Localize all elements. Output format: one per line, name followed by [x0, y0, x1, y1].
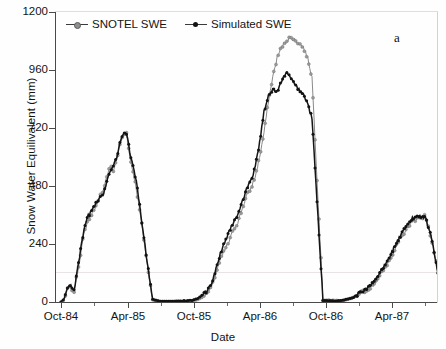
data-point: [213, 272, 216, 275]
data-point: [207, 287, 210, 290]
data-point: [224, 246, 227, 249]
data-point: [147, 267, 150, 270]
data-point: [235, 224, 238, 227]
data-point: [222, 242, 225, 245]
data-point: [220, 251, 223, 254]
x-tick-minor-3: [227, 303, 228, 306]
data-point: [68, 284, 71, 287]
x-tick-oct-84: [61, 303, 62, 308]
data-point: [233, 218, 236, 221]
x-tick-minor-6: [425, 303, 426, 306]
x-tick-oct-86: [326, 303, 327, 308]
data-point: [318, 234, 321, 237]
series-line: [61, 72, 437, 302]
figure-panel-a: Snow Water Equilivalent (mm) 1200 960 72…: [0, 0, 446, 349]
data-point: [264, 122, 267, 125]
data-point: [73, 288, 76, 291]
data-point: [270, 83, 273, 86]
data-point: [149, 283, 152, 286]
data-point: [138, 203, 141, 206]
data-point: [248, 180, 251, 183]
data-point: [299, 42, 302, 45]
x-tick-apr-87: [392, 303, 393, 308]
data-point: [427, 226, 430, 229]
data-point: [270, 91, 273, 94]
data-point: [429, 231, 432, 234]
data-point: [369, 287, 372, 290]
data-point: [401, 230, 404, 233]
x-tick-label-oct-86: Oct-86: [296, 310, 356, 322]
data-point: [365, 288, 368, 291]
data-point: [431, 240, 434, 243]
data-point: [246, 186, 249, 189]
data-point: [140, 222, 143, 225]
data-point: [84, 224, 87, 227]
y-tick-label-0: 0: [0, 295, 48, 307]
data-point: [103, 187, 106, 190]
data-point: [320, 267, 323, 270]
data-point: [433, 251, 436, 254]
data-point: [108, 173, 111, 176]
x-tick-label-apr-87: Apr-87: [362, 310, 422, 322]
data-point: [312, 96, 315, 99]
data-point: [275, 63, 278, 66]
x-tick-minor-1: [94, 303, 95, 306]
data-point: [281, 45, 284, 48]
data-point: [296, 88, 299, 91]
data-point: [303, 95, 306, 98]
y-tick-label-1200: 1200: [0, 5, 48, 17]
y-tick-label-240: 240: [0, 237, 48, 249]
data-point: [209, 284, 212, 287]
data-point: [301, 45, 304, 48]
data-point: [264, 107, 267, 110]
data-point: [305, 99, 308, 102]
x-axis-title: Date: [0, 331, 446, 343]
series-snotel-swe: [60, 36, 438, 302]
data-point: [205, 292, 208, 295]
data-point: [242, 205, 245, 208]
data-point: [361, 290, 364, 293]
x-tick-label-apr-86: Apr-86: [230, 310, 290, 322]
plot-area: [55, 12, 437, 302]
x-tick-label-oct-85: Oct-85: [164, 310, 224, 322]
data-point: [116, 152, 119, 155]
data-point: [259, 135, 262, 138]
data-point: [272, 70, 275, 73]
data-point: [64, 293, 67, 296]
data-point: [218, 257, 221, 260]
data-point: [279, 82, 282, 85]
y-tick-label-960: 960: [0, 63, 48, 75]
data-point: [403, 233, 406, 236]
data-point: [101, 193, 104, 196]
data-point: [356, 295, 359, 298]
data-point: [134, 176, 137, 179]
data-point: [240, 203, 243, 206]
data-point: [62, 299, 65, 302]
data-point: [384, 263, 387, 266]
plot-frame-right: [437, 11, 438, 303]
x-tick-apr-86: [260, 303, 261, 308]
x-axis-line: [55, 302, 438, 303]
data-point: [303, 50, 306, 53]
data-point: [391, 250, 394, 253]
data-point: [255, 158, 258, 161]
data-point: [294, 84, 297, 87]
data-point: [388, 257, 391, 260]
data-point: [285, 71, 288, 74]
data-point: [237, 210, 240, 213]
data-point: [316, 200, 319, 203]
data-point: [290, 77, 293, 80]
y-tick-label-720: 720: [0, 121, 48, 133]
data-point: [314, 166, 317, 169]
data-point: [285, 40, 288, 43]
data-point: [376, 275, 379, 278]
data-point: [309, 73, 312, 76]
x-tick-label-oct-84: Oct-84: [31, 310, 91, 322]
data-point: [92, 205, 95, 208]
data-point: [127, 143, 130, 146]
data-point: [66, 286, 69, 289]
data-point: [244, 190, 247, 193]
data-point: [425, 219, 428, 222]
data-point: [305, 55, 308, 58]
data-point: [136, 187, 139, 190]
